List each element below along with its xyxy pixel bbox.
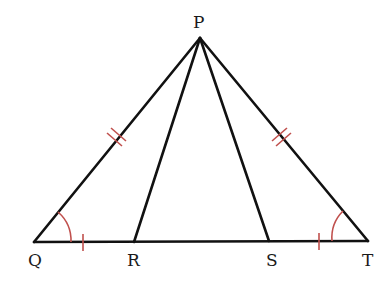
label-R: R: [127, 250, 141, 270]
label-T: T: [362, 250, 374, 270]
label-S: S: [266, 250, 278, 270]
congruence-marks: [58, 128, 343, 251]
angle-arc-Q: [58, 212, 71, 242]
triangle-diagram: P Q R S T: [0, 0, 392, 283]
label-Q: Q: [28, 250, 42, 270]
segment-QT: [34, 241, 368, 242]
triangle-lines: [34, 38, 368, 242]
angle-arc-T: [332, 211, 343, 241]
label-P: P: [193, 12, 204, 32]
vertex-labels: P Q R S T: [28, 12, 374, 270]
segment-PQ: [34, 38, 200, 242]
segment-PR: [134, 38, 200, 242]
segment-PS: [200, 38, 269, 241]
